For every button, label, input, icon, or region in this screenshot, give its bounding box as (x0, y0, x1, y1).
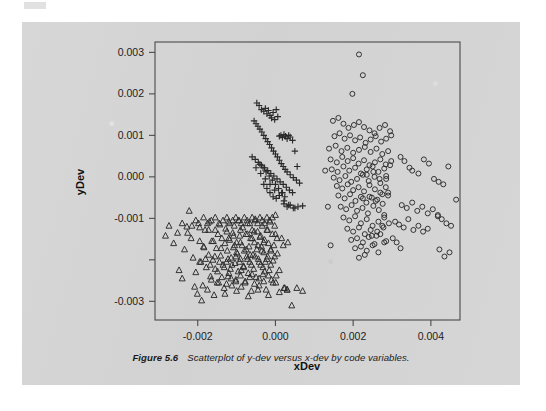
data-point-circle (377, 125, 382, 130)
data-point-triangle (212, 214, 218, 220)
data-point-triangle (265, 292, 271, 298)
data-point-circle (374, 146, 379, 151)
data-point-triangle (245, 293, 251, 299)
data-point-circle (334, 183, 339, 188)
data-point-circle (370, 164, 375, 169)
data-point-plus (285, 132, 291, 138)
data-point-circle (356, 225, 361, 230)
data-point-circle (373, 198, 378, 203)
data-point-circle (341, 121, 346, 126)
x-tick-label: 0.002 (340, 330, 366, 342)
data-point-circle (366, 235, 371, 240)
figure-panel: -0.0020.0000.0020.004 0.0030.0020.0010.0… (22, 22, 520, 385)
data-point-circle (362, 158, 367, 163)
data-point-triangle (237, 232, 243, 238)
data-point-circle (425, 211, 430, 216)
data-point-circle (353, 138, 358, 143)
data-point-plus (283, 184, 289, 190)
data-point-circle (360, 205, 365, 210)
data-point-circle (376, 219, 381, 224)
data-point-plus (299, 203, 305, 209)
data-point-circle (353, 165, 358, 170)
data-point-triangle (224, 247, 230, 253)
data-point-triangle (222, 291, 228, 297)
data-point-circle (351, 150, 356, 155)
data-point-triangle (208, 276, 214, 282)
data-point-circle (344, 207, 349, 212)
data-point-circle (348, 192, 353, 197)
data-point-circle (401, 225, 406, 230)
data-point-plus (296, 180, 302, 186)
data-point-triangle (238, 284, 244, 290)
data-point-triangle (219, 274, 225, 280)
data-point-circle (416, 171, 421, 176)
data-point-triangle (255, 286, 261, 292)
data-point-circle (421, 229, 426, 234)
data-point-circle (376, 250, 381, 255)
data-point-triangle (266, 267, 272, 273)
data-point-plus (273, 106, 279, 112)
data-point-circle (384, 136, 389, 141)
data-point-plus (257, 170, 263, 176)
y-axis-ticks: 0.0030.0020.0010.000-0.001-0.003 (114, 46, 155, 307)
data-point-circle (358, 135, 363, 140)
data-point-circle (371, 169, 376, 174)
data-point-circle (404, 205, 409, 210)
data-point-circle (379, 139, 384, 144)
series-1-triangle (163, 208, 306, 308)
data-point-triangle (192, 284, 198, 290)
data-point-circle (372, 174, 377, 179)
data-point-circle (449, 223, 454, 228)
data-point-circle (362, 189, 367, 194)
x-axis-ticks: -0.0020.0000.0020.004 (183, 320, 444, 342)
data-point-circle (356, 147, 361, 152)
data-point-plus (294, 163, 300, 169)
data-point-circle (353, 214, 358, 219)
data-point-circle (362, 252, 367, 257)
data-point-circle (421, 157, 426, 162)
data-point-triangle (200, 282, 206, 288)
data-point-circle (442, 254, 447, 259)
data-point-circle (345, 226, 350, 231)
data-point-circle (437, 247, 442, 252)
data-point-triangle (179, 275, 185, 281)
data-point-circle (356, 255, 361, 260)
data-point-triangle (189, 223, 195, 229)
data-point-plus (264, 167, 270, 173)
data-point-triangle (215, 231, 221, 237)
data-point-plus (275, 185, 281, 191)
data-point-circle (343, 174, 348, 179)
data-point-circle (372, 187, 377, 192)
data-point-circle (337, 178, 342, 183)
data-point-circle (323, 168, 328, 173)
figure-page: -0.0020.0000.0020.004 0.0030.0020.0010.0… (0, 0, 546, 411)
data-point-triangle (188, 235, 194, 241)
data-point-circle (355, 208, 360, 213)
data-point-circle (346, 125, 351, 130)
data-point-plus (262, 176, 268, 182)
plot-area: -0.0020.0000.0020.004 0.0030.0020.0010.0… (22, 22, 520, 385)
data-point-plus (281, 201, 287, 207)
data-point-circle (368, 137, 373, 142)
data-point-circle (334, 160, 339, 165)
data-point-plus (274, 176, 280, 182)
data-point-circle (356, 52, 361, 57)
marker-layer (163, 52, 459, 308)
data-point-triangle (265, 272, 271, 278)
data-point-triangle (185, 230, 191, 236)
data-point-plus (275, 113, 281, 119)
data-point-circle (355, 176, 360, 181)
data-point-circle (347, 218, 352, 223)
data-point-circle (330, 118, 335, 123)
data-point-triangle (201, 214, 207, 220)
data-point-circle (380, 152, 385, 157)
data-point-circle (351, 156, 356, 161)
data-point-triangle (193, 217, 199, 223)
caption-label: Figure 5.6 (132, 352, 178, 363)
data-point-triangle (294, 285, 300, 291)
data-point-circle (347, 168, 352, 173)
data-point-circle (336, 193, 341, 198)
data-point-circle (380, 201, 385, 206)
data-point-triangle (190, 254, 196, 260)
data-point-plus (270, 194, 276, 200)
